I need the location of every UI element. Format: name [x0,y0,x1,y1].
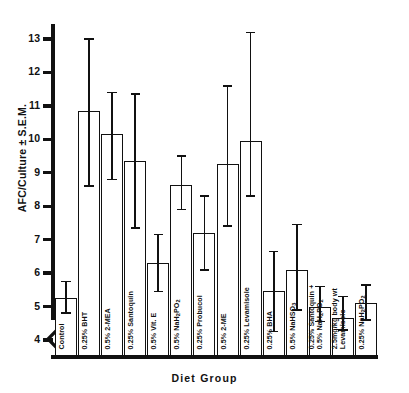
x-tick-label: 0.25% BHT [81,311,89,349]
y-tick-label-11: 11 [20,99,40,111]
error-bar [111,93,113,180]
error-cap-lower [223,225,233,227]
x-axis-line [51,355,378,359]
y-tick-6 [43,271,53,274]
y-tick-8 [43,205,53,208]
y-tick-11 [43,104,53,107]
x-tick-label: 0.5% 2-ME [219,313,227,349]
error-cap-upper [246,32,256,34]
error-cap-lower [131,227,141,229]
error-cap-upper [131,93,141,95]
error-cap-lower [246,195,256,197]
error-cap-upper [338,296,348,298]
y-tick-label-10: 10 [20,132,40,144]
error-bar [88,39,90,186]
error-cap-lower [61,312,71,314]
y-tick-label-9: 9 [20,166,40,178]
error-bar [227,86,229,226]
error-cap-upper [269,251,279,253]
error-bar [296,225,298,310]
x-tick-label: 0.25% BHA [265,311,273,349]
x-tick-label: 0.25% Santoquin + [307,284,315,349]
y-tick-label-7: 7 [20,233,40,245]
error-bar [204,196,206,270]
x-tick-label: 0.5% NaH2PO2 [316,299,324,349]
error-cap-upper [292,224,302,226]
x-axis-label: Diet Group [0,372,409,384]
error-cap-upper [177,155,187,157]
error-cap-lower [177,209,187,211]
y-tick-4 [43,338,53,341]
error-bar [65,281,67,313]
y-tick-7 [43,238,53,241]
y-tick-label-5: 5 [20,300,40,312]
y-tick-9 [43,171,53,174]
x-tick-label: 0.5% NaHSO3 [288,302,296,349]
x-tick-label: 0.25% NaH2PO2 [358,295,366,349]
y-tick-13 [43,37,53,40]
error-bar [250,32,252,196]
y-tick-10 [43,138,53,141]
y-tick-label-13: 13 [20,32,40,44]
y-tick-label-12: 12 [20,65,40,77]
error-cap-upper [223,85,233,87]
plot-area: Control0.25% BHT0.5% 2-MEA0.25% Santoqui… [55,24,378,355]
y-tick-label-6: 6 [20,266,40,278]
x-tick-label: 0.5% NaH2PO2 [173,299,181,349]
error-cap-upper [61,281,71,283]
x-tick-label: 0.25% Santoquin [127,291,135,349]
error-cap-upper [200,195,210,197]
x-tick-label: 2.5mg/kg body wt [330,288,338,349]
error-bar [181,156,183,209]
error-bar [157,235,159,292]
y-tick-label-4: 4 [20,333,40,345]
y-tick-5 [43,305,53,308]
x-tick-label: Control [58,323,66,349]
error-cap-upper [361,284,371,286]
x-tick-label: 0.25% Probucol [196,295,204,349]
error-cap-lower [107,179,117,181]
x-tick-label: 0.5% Vit. E [150,312,158,349]
error-cap-upper [107,92,117,94]
error-bar [134,94,136,228]
x-tick-label: 0.5% 2-MEA [104,308,112,349]
error-cap-upper [154,234,164,236]
x-tick-label: 0.25% Levamisole [242,287,250,349]
y-tick-12 [43,71,53,74]
error-cap-lower [84,185,94,187]
error-cap-upper [84,38,94,40]
bar-chart-figure: AFC/Culture ± S.E.M. 45678910111213 Cont… [0,0,409,393]
error-cap-upper [315,286,325,288]
x-tick-label: Levamisole [339,309,347,349]
error-cap-lower [200,269,210,271]
error-cap-lower [154,291,164,293]
y-tick-label-8: 8 [20,199,40,211]
